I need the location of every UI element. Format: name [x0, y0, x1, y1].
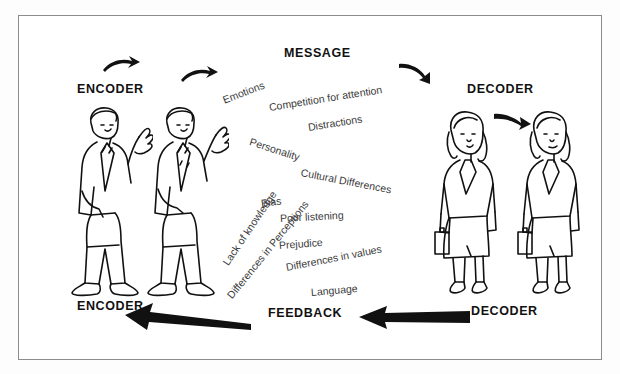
barrier-distractions: Distractions	[307, 112, 363, 132]
feedback-label: FEEDBACK	[268, 306, 342, 320]
diagram-frame: MESSAGE ENCODER DECODER ENCODER FEEDBACK…	[18, 15, 602, 360]
decoder-top-label: DECODER	[467, 82, 534, 96]
barrier-prejudice: Prejudice	[279, 236, 324, 251]
curved-arrow-encoder-2-icon	[179, 64, 219, 86]
decoder-person-1-figure	[427, 106, 507, 296]
decoder-bottom-label: DECODER	[471, 304, 538, 318]
communication-model-diagram: MESSAGE ENCODER DECODER ENCODER FEEDBACK…	[0, 0, 620, 374]
barrier-personality: Personality	[248, 135, 301, 162]
message-label: MESSAGE	[284, 46, 351, 60]
barrier-language: Language	[310, 282, 358, 298]
encoder-top-label: ENCODER	[77, 82, 144, 96]
barrier-competition-for-attention: Competition for attention	[268, 83, 383, 113]
barrier-bias: Bias	[260, 195, 282, 209]
decoder-person-2-figure	[510, 106, 590, 296]
curved-arrow-encoder-1-icon	[101, 54, 141, 76]
encoder-person-2-figure	[137, 101, 229, 301]
feedback-arrow-left-icon	[123, 301, 253, 331]
barrier-cultural-differences: Cultural Differences	[300, 166, 393, 195]
feedback-arrow-right-icon	[357, 303, 472, 331]
curved-arrow-decoder-1-icon	[397, 60, 437, 86]
